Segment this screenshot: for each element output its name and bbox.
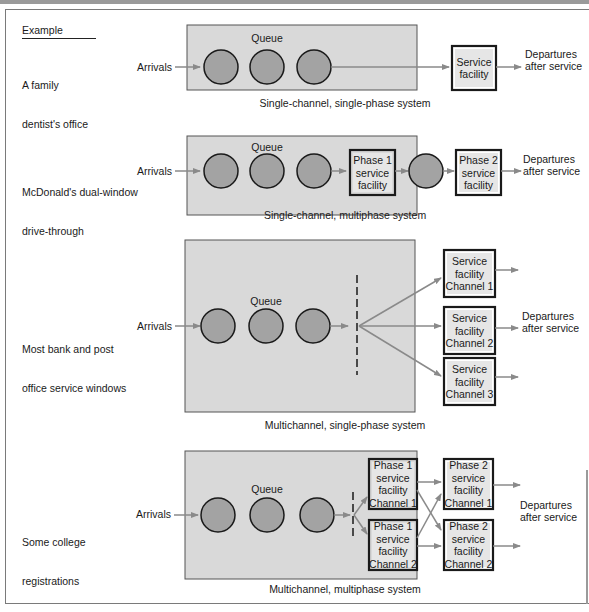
queue-label: Queue [251, 32, 283, 44]
service-facility-label: Service [452, 312, 487, 324]
queue-customer [250, 154, 284, 188]
service-facility-label: facility [454, 484, 484, 496]
queue-customer [296, 309, 330, 343]
queue-customer [201, 498, 235, 532]
service-facility-label: Channel 2 [369, 558, 417, 570]
service-facility-label: Channel 3 [446, 388, 494, 400]
service-facility-label: Service [456, 56, 491, 68]
departures-label: after service [520, 511, 577, 523]
service-facility-label: Phase 2 [459, 154, 498, 166]
service-facility-label: service [356, 167, 389, 179]
service-facility-label: facility [455, 376, 485, 388]
queue-label: Queue [251, 483, 283, 495]
service-facility-label: service [376, 533, 409, 545]
service-facility-label: Phase 1 [374, 459, 413, 471]
service-facility-label: service [376, 472, 409, 484]
queue-customer [204, 50, 238, 84]
departures-label: Departures [522, 310, 574, 322]
service-facility-label: facility [455, 268, 485, 280]
departures-label: Departures [523, 153, 575, 165]
service-facility-label: Channel 1 [446, 280, 494, 292]
arrivals-label: Arrivals [137, 61, 172, 73]
flow-arrow [417, 490, 441, 530]
service-facility-label: Service [452, 255, 487, 267]
service-facility-label: Channel 1 [445, 497, 493, 509]
service-facility-label: Phase 1 [353, 154, 392, 166]
queue-customer [409, 154, 443, 188]
service-facility-label: Service [452, 363, 487, 375]
arrivals-label: Arrivals [137, 320, 172, 332]
queue-customer [297, 154, 331, 188]
service-facility-label: service [452, 533, 485, 545]
flow-arrow [417, 494, 441, 538]
service-facility-label: facility [464, 179, 494, 191]
system-caption: Single-channel, multiphase system [264, 209, 427, 221]
service-facility-label: service [462, 167, 495, 179]
departures-label: after service [523, 165, 580, 177]
queue-customer [300, 498, 334, 532]
departures-label: after service [525, 60, 582, 72]
departures-label: Departures [520, 499, 572, 511]
service-facility-label: facility [378, 484, 408, 496]
arrivals-label: Arrivals [137, 165, 172, 177]
service-facility-label: Phase 2 [449, 459, 488, 471]
queue-customer [250, 50, 284, 84]
queue-label: Queue [250, 295, 282, 307]
service-facility-label: Phase 1 [374, 520, 413, 532]
system-caption: Multichannel, single-phase system [265, 419, 426, 431]
arrivals-label: Arrivals [136, 508, 171, 520]
service-facility-label: facility [378, 545, 408, 557]
queue-customer [297, 50, 331, 84]
departures-label: Departures [525, 48, 577, 60]
service-facility-label: Channel 2 [445, 558, 493, 570]
queue-label: Queue [251, 141, 283, 153]
system-caption: Multichannel, multiphase system [269, 583, 421, 595]
queuing-systems-diagram: ArrivalsQueueServicefacilityDeparturesaf… [0, 0, 589, 612]
service-facility-label: Channel 2 [446, 337, 494, 349]
service-facility-label: facility [455, 325, 485, 337]
system-caption: Single-channel, single-phase system [259, 97, 430, 109]
queue-customer [249, 309, 283, 343]
service-facility-label: facility [459, 68, 489, 80]
service-facility-label: Channel 1 [369, 497, 417, 509]
service-facility-label: service [452, 472, 485, 484]
service-facility-label: facility [454, 545, 484, 557]
service-facility-label: Phase 2 [449, 520, 488, 532]
departures-label: after service [522, 322, 579, 334]
service-facility-label: facility [358, 179, 388, 191]
queue-customer [204, 154, 238, 188]
queue-customer [250, 498, 284, 532]
queue-customer [201, 309, 235, 343]
